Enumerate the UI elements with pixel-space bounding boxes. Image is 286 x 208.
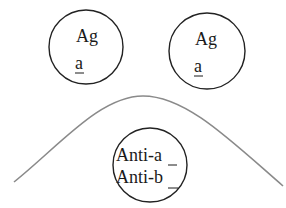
antigen-circle-1: Ag a <box>49 10 123 84</box>
antibody-line-1: Anti-a <box>116 145 162 165</box>
antigen-1-type: a <box>75 53 83 73</box>
antigen-2-type: a <box>194 56 202 76</box>
antigen-antibody-diagram: Ag a Ag a Anti-a Anti-b <box>0 0 286 208</box>
antibody-circle: Anti-a Anti-b <box>113 128 187 202</box>
antigen-1-label: Ag <box>76 26 98 46</box>
antigen-2-label: Ag <box>195 29 217 49</box>
antigen-circle-2: Ag a <box>169 13 245 89</box>
antibody-line-2: Anti-b <box>116 167 163 187</box>
